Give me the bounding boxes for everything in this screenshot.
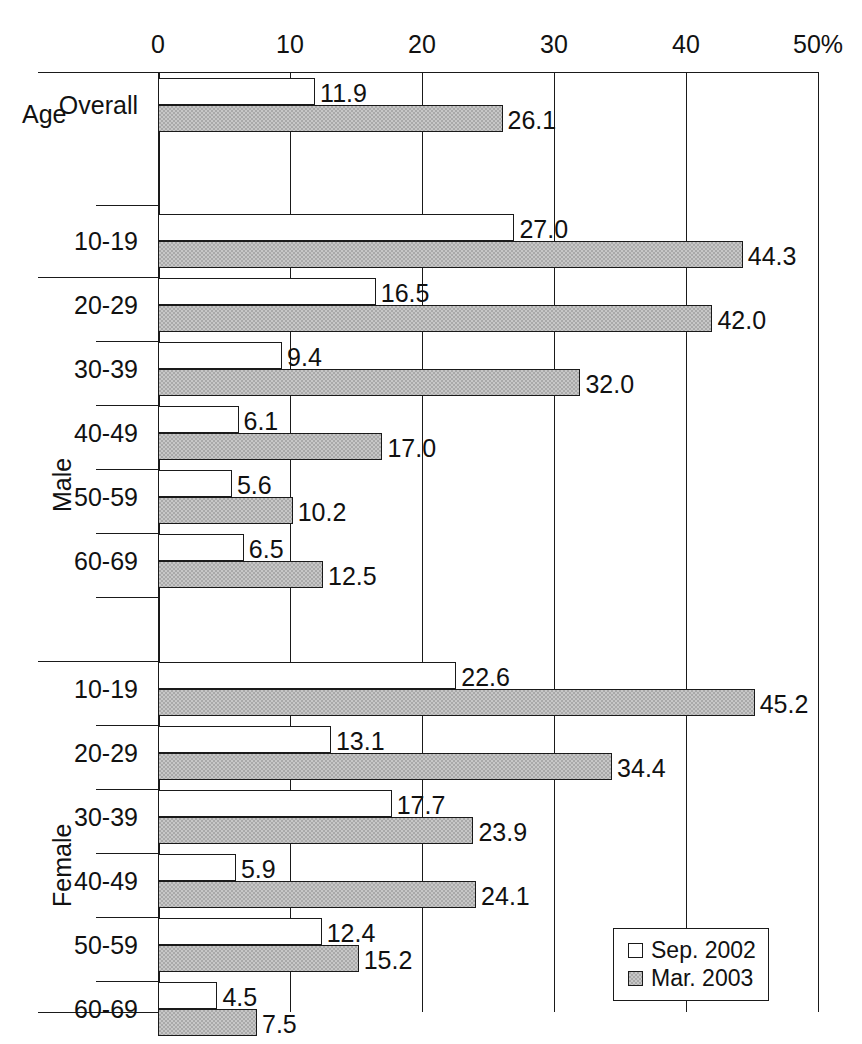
value-label-mar2003-m-30-39: 32.0 bbox=[585, 372, 634, 397]
bar-mar2003-overall bbox=[158, 105, 503, 132]
bar-sep2002-m-20-29 bbox=[158, 278, 376, 305]
category-label-overall: Overall bbox=[59, 93, 138, 118]
value-label-mar2003-f-20-29: 34.4 bbox=[617, 756, 666, 781]
chart-root: 01020304050% 11.926.127.044.316.542.09.4… bbox=[0, 0, 862, 1044]
category-label-m-40-49: 40-49 bbox=[74, 421, 138, 446]
category-label-m-30-39: 30-39 bbox=[74, 357, 138, 382]
bar-mar2003-m-30-39 bbox=[158, 369, 580, 396]
bar-sep2002-f-60-69 bbox=[158, 982, 217, 1009]
x-tick-label: 20 bbox=[408, 30, 436, 58]
bar-sep2002-m-40-49 bbox=[158, 406, 239, 433]
value-label-sep2002-m-40-49: 6.1 bbox=[244, 409, 279, 434]
x-tick-label: 10 bbox=[276, 30, 304, 58]
value-label-sep2002-overall: 11.9 bbox=[320, 81, 367, 106]
group-label-age: Age bbox=[22, 100, 66, 129]
value-label-mar2003-overall: 26.1 bbox=[508, 108, 557, 133]
bar-sep2002-f-40-49 bbox=[158, 854, 236, 881]
category-label-m-10-19: 10-19 bbox=[74, 229, 138, 254]
category-label-f-10-19: 10-19 bbox=[74, 677, 138, 702]
value-label-mar2003-m-60-69: 12.5 bbox=[328, 564, 377, 589]
bar-mar2003-f-10-19 bbox=[158, 689, 755, 716]
gridline bbox=[290, 72, 291, 1012]
bar-mar2003-f-50-59 bbox=[158, 945, 359, 972]
x-tick-label: 40 bbox=[672, 30, 700, 58]
bar-sep2002-m-50-59 bbox=[158, 470, 232, 497]
legend-swatch-dark bbox=[628, 971, 643, 986]
category-label-m-50-59: 50-59 bbox=[74, 485, 138, 510]
value-label-sep2002-f-10-19: 22.6 bbox=[461, 665, 510, 690]
bar-mar2003-m-20-29 bbox=[158, 305, 712, 332]
group-label-male: Male bbox=[48, 458, 77, 512]
gridline bbox=[422, 72, 423, 1012]
category-label-f-20-29: 20-29 bbox=[74, 741, 138, 766]
legend: Sep. 2002Mar. 2003 bbox=[613, 928, 769, 1001]
bar-mar2003-m-60-69 bbox=[158, 561, 323, 588]
legend-label: Mar. 2003 bbox=[651, 964, 753, 992]
category-label-m-20-29: 20-29 bbox=[74, 293, 138, 318]
value-label-sep2002-m-20-29: 16.5 bbox=[381, 281, 430, 306]
value-label-mar2003-m-40-49: 17.0 bbox=[387, 436, 436, 461]
category-label-m-60-69: 60-69 bbox=[74, 549, 138, 574]
bar-mar2003-m-40-49 bbox=[158, 433, 382, 460]
group-label-female: Female bbox=[48, 824, 77, 907]
value-label-sep2002-m-10-19: 27.0 bbox=[519, 217, 568, 242]
axis-tick bbox=[146, 1012, 158, 1013]
bar-sep2002-m-10-19 bbox=[158, 214, 514, 241]
bar-sep2002-f-30-39 bbox=[158, 790, 392, 817]
value-label-sep2002-m-50-59: 5.6 bbox=[237, 473, 272, 498]
gridline bbox=[818, 72, 819, 1012]
category-label-f-30-39: 30-39 bbox=[74, 805, 138, 830]
x-tick-label: 30 bbox=[540, 30, 568, 58]
bar-mar2003-f-40-49 bbox=[158, 881, 476, 908]
gridline bbox=[554, 72, 555, 1012]
bar-sep2002-m-30-39 bbox=[158, 342, 282, 369]
legend-swatch-light bbox=[628, 943, 643, 958]
value-label-sep2002-f-50-59: 12.4 bbox=[327, 921, 376, 946]
value-label-mar2003-f-60-69: 7.5 bbox=[262, 1012, 297, 1037]
value-label-sep2002-f-40-49: 5.9 bbox=[241, 857, 276, 882]
value-label-mar2003-m-20-29: 42.0 bbox=[717, 308, 766, 333]
bar-sep2002-m-60-69 bbox=[158, 534, 244, 561]
gridline bbox=[686, 72, 687, 1012]
bar-sep2002-f-20-29 bbox=[158, 726, 331, 753]
bar-sep2002-f-50-59 bbox=[158, 918, 322, 945]
x-tick-label: 50% bbox=[793, 30, 843, 58]
category-label-f-40-49: 40-49 bbox=[74, 869, 138, 894]
x-tick-label: 0 bbox=[151, 30, 165, 58]
bar-mar2003-m-50-59 bbox=[158, 497, 293, 524]
value-label-mar2003-m-10-19: 44.3 bbox=[748, 244, 797, 269]
value-label-mar2003-f-50-59: 15.2 bbox=[364, 948, 413, 973]
legend-item-2: Mar. 2003 bbox=[628, 964, 756, 992]
value-label-mar2003-f-10-19: 45.2 bbox=[760, 692, 809, 717]
value-label-sep2002-m-30-39: 9.4 bbox=[287, 345, 322, 370]
legend-label: Sep. 2002 bbox=[651, 936, 756, 964]
value-label-mar2003-f-40-49: 24.1 bbox=[481, 884, 530, 909]
value-label-sep2002-f-60-69: 4.5 bbox=[222, 985, 257, 1010]
value-label-mar2003-m-50-59: 10.2 bbox=[298, 500, 347, 525]
category-label-f-50-59: 50-59 bbox=[74, 933, 138, 958]
x-axis-labels: 01020304050% bbox=[0, 30, 862, 64]
bar-mar2003-f-20-29 bbox=[158, 753, 612, 780]
bar-mar2003-f-60-69 bbox=[158, 1009, 257, 1036]
bar-sep2002-overall bbox=[158, 78, 315, 105]
value-label-sep2002-m-60-69: 6.5 bbox=[249, 537, 284, 562]
plot-area: 11.926.127.044.316.542.09.432.06.117.05.… bbox=[158, 72, 818, 1012]
value-label-sep2002-f-30-39: 17.7 bbox=[397, 793, 446, 818]
value-label-sep2002-f-20-29: 13.1 bbox=[336, 729, 385, 754]
category-label-f-60-69: 60-69 bbox=[74, 997, 138, 1022]
value-label-mar2003-f-30-39: 23.9 bbox=[478, 820, 527, 845]
bar-sep2002-f-10-19 bbox=[158, 662, 456, 689]
bar-mar2003-m-10-19 bbox=[158, 241, 743, 268]
bar-mar2003-f-30-39 bbox=[158, 817, 473, 844]
legend-item-1: Sep. 2002 bbox=[628, 936, 756, 964]
